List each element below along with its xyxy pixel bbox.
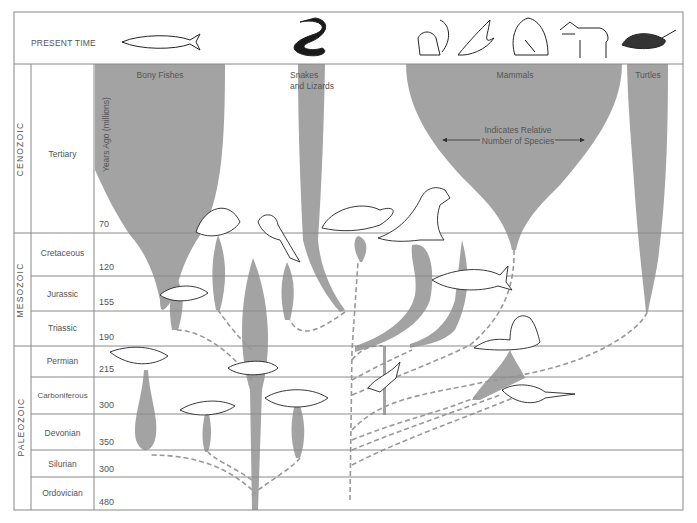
snake-icon — [294, 18, 326, 56]
present-time-label: PRESENT TIME — [31, 38, 96, 48]
spindle-snakes-lizards — [298, 64, 345, 312]
y-axis-label: Years Ago (millions) — [101, 97, 111, 172]
spindle-turtles — [627, 64, 668, 312]
period-gridlines — [94, 233, 683, 477]
age-300b: 300 — [99, 464, 114, 474]
group-mammals: Mammals — [485, 70, 545, 81]
age-480: 480 — [99, 497, 114, 507]
period-ordovician: Ordovician — [31, 488, 94, 498]
age-120: 120 — [99, 262, 114, 272]
period-jurassic: Jurassic — [31, 289, 94, 299]
age-300: 300 — [99, 400, 114, 410]
pelycosaur-icon — [502, 385, 575, 403]
spindle-central — [242, 258, 268, 510]
primitive-shark-icon — [180, 401, 235, 415]
gorilla-icon — [513, 18, 548, 55]
age-155: 155 — [99, 297, 114, 307]
lobe-finned-fish-icon — [110, 347, 168, 364]
age-350: 350 — [99, 437, 114, 447]
age-190: 190 — [99, 332, 114, 342]
age-70: 70 — [99, 219, 109, 229]
period-triassic: Triassic — [31, 323, 94, 333]
herring-fish-icon — [122, 34, 200, 50]
spindle-shark — [202, 410, 211, 452]
squirrel-icon — [418, 20, 449, 55]
spindle-dinosaur — [355, 244, 432, 352]
plesiosaur-icon — [258, 215, 300, 262]
spindle-teleost — [212, 235, 225, 310]
crossopterygian-icon — [265, 390, 328, 407]
ancestry-lines — [150, 250, 648, 500]
era-paleozoic: PALEOZOIC — [16, 392, 26, 462]
triceratops-icon — [322, 206, 393, 231]
period-carboniferous: Carboniferous — [31, 391, 94, 400]
period-silurian: Silurian — [31, 459, 94, 469]
era-mesozoic: MESOZOIC — [15, 260, 25, 320]
bat-icon — [458, 20, 494, 55]
legend-relative-species: Indicates Relative Number of Species — [478, 125, 558, 147]
spindle-rhipidistian — [135, 370, 156, 450]
spindle-archosaur — [355, 236, 367, 262]
group-turtles: Turtles — [628, 70, 668, 81]
period-permian: Permian — [31, 356, 94, 366]
early-amphibian-icon — [228, 361, 278, 375]
spindle-bony-fishes — [95, 64, 225, 310]
tortoise-icon — [622, 30, 676, 49]
period-tertiary: Tertiary — [31, 149, 94, 159]
period-cretaceous: Cretaceous — [31, 248, 94, 258]
ichthyosaur-icon — [432, 266, 512, 290]
present-illustrations — [122, 18, 676, 58]
era-cenozoic: CENOZOIC — [15, 119, 25, 179]
group-snakes-lizards: Snakes and Lizards — [290, 70, 334, 92]
group-bony-fishes: Bony Fishes — [130, 70, 190, 81]
horse-icon — [560, 22, 608, 58]
age-215: 215 — [99, 364, 114, 374]
spindle-acanthodian — [292, 400, 305, 458]
spindle-mammals — [406, 64, 622, 250]
period-devonian: Devonian — [31, 428, 94, 438]
